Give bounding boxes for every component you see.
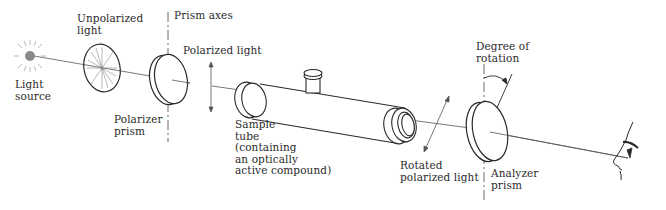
polarimeter-diagram: Light source Unpolarized light Prism axe… [0,0,666,210]
unpolarized-light-icon [79,41,124,95]
label-rotated-polarized-light: Rotated polarized light [400,160,479,183]
rotation-angle-arc-icon [484,76,507,84]
light-source-icon [14,40,46,72]
label-light-source: Light source [15,79,51,102]
label-polarizer-prism: Polarizer prism [114,114,163,137]
polarized-light-arrow-icon [209,62,213,112]
label-analyzer-prism: Analyzer prism [491,168,538,191]
observer-face-icon [614,122,639,180]
label-polarized-light: Polarized light [183,45,262,57]
label-unpolarized-light: Unpolarized light [77,13,143,36]
label-sample-tube: Sample tube (containing an optically act… [235,119,331,177]
rotated-polarized-light-arrow-icon [424,96,449,152]
label-degree-of-rotation: Degree of rotation [476,41,529,64]
polarizer-prism-icon [145,51,192,108]
label-prism-axes: Prism axes [174,10,233,22]
analyzer-prism-icon [461,98,513,165]
